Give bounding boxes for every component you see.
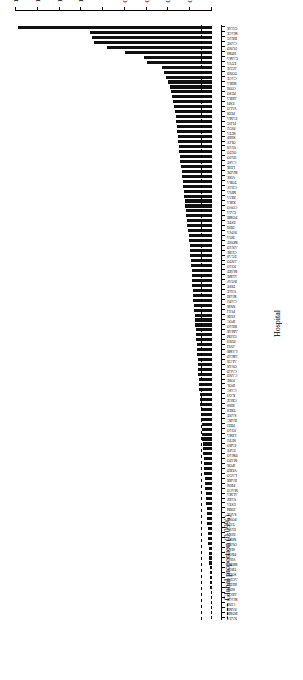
category-tick-label: CINF <box>227 601 260 605</box>
bar <box>92 36 212 39</box>
category-tick-label: SANT <box>227 413 260 417</box>
category-tick-label: GAMA <box>227 56 260 60</box>
bar <box>184 190 212 193</box>
category-tick-label: VARZ <box>227 497 260 501</box>
category-tick <box>222 453 225 454</box>
bar <box>203 447 212 450</box>
bar <box>208 542 212 545</box>
category-tick-label: TROF <box>227 566 260 570</box>
category-tick-label: MEDA <box>227 561 260 565</box>
bar <box>203 442 212 445</box>
bar <box>172 95 212 98</box>
bar <box>206 497 212 500</box>
category-tick-label: CRUZ <box>227 398 260 402</box>
category-tick-label: GUIM <box>227 333 260 337</box>
category-tick-label: DINI <box>227 224 260 228</box>
category-tick-label: HBM <box>227 507 260 511</box>
category-tick-label: IPOC <box>227 318 260 322</box>
bar <box>211 591 212 594</box>
category-tick-label: MACE <box>227 31 260 35</box>
bar <box>211 601 212 604</box>
category-tick-label: HPMI <box>227 51 260 55</box>
category-tick-label: JOAO <box>227 264 260 268</box>
category-tick <box>222 264 225 265</box>
bar <box>208 532 212 535</box>
category-tick-label: PEDI <box>227 110 260 114</box>
category-tick <box>222 205 225 206</box>
category-tick-label: AGUD <box>227 576 260 580</box>
category-tick <box>222 111 225 112</box>
value-tick-label: 1.8 <box>12 0 20 8</box>
bar <box>195 323 212 326</box>
category-tick <box>222 339 225 340</box>
category-tick-label: TAVI <box>227 522 260 526</box>
bar <box>211 606 212 609</box>
bar <box>182 175 212 178</box>
category-tick-label: CACE <box>227 75 260 79</box>
plot-area: GUARMACEBRAGCANTFUNDHPMIGAMAETVAAGUETOND… <box>0 0 303 680</box>
category-tick-label: AMAD <box>227 353 260 357</box>
category-tick-label: TRES <box>227 408 260 412</box>
category-tick-label: VISE <box>227 175 260 179</box>
category-tick-label: VIAN <box>227 145 260 149</box>
bar <box>197 348 212 351</box>
category-tick-label: BOMB <box>227 611 260 615</box>
category-tick-label: NISA <box>227 532 260 536</box>
category-tick-label: MADE <box>227 170 260 174</box>
category-tick-label: ETVA <box>227 61 260 65</box>
category-tick <box>222 26 225 27</box>
category-tick <box>222 210 225 211</box>
bar <box>210 566 212 569</box>
bar <box>184 195 212 198</box>
category-tick <box>222 91 225 92</box>
bar <box>195 314 212 317</box>
value-tick-label: 1.4 <box>56 0 64 8</box>
category-tick <box>222 383 225 384</box>
bar <box>188 224 213 227</box>
category-tick <box>222 180 225 181</box>
category-tick-label: XAVI <box>227 393 260 397</box>
bar <box>176 120 212 123</box>
category-tick <box>222 269 225 270</box>
bar <box>187 219 212 222</box>
category-tick <box>222 66 225 67</box>
category-tick-label: BRAO <box>227 323 260 327</box>
bar <box>205 482 212 485</box>
category-tick <box>222 255 225 256</box>
bar <box>208 537 212 540</box>
category-tick <box>222 507 225 508</box>
category-tick <box>222 126 225 127</box>
category-tick-label: FUND <box>227 46 260 50</box>
category-tick-label: CONI <box>227 85 260 89</box>
bar <box>177 130 212 133</box>
category-tick-label: SNIR <box>227 303 260 307</box>
category-tick-label: JOAO <box>227 427 260 431</box>
category-tick-label: VALO <box>227 105 260 109</box>
category-tick-label: ESPI <box>227 100 260 104</box>
category-tick-label: SAGR <box>227 512 260 516</box>
category-tick-label: BRAG <box>227 36 260 40</box>
category-tick <box>222 200 225 201</box>
value-tick-label: 0.2 <box>186 0 194 8</box>
category-tick <box>222 443 225 444</box>
category-tick <box>222 46 225 47</box>
category-tick-label: NAZA <box>227 616 260 620</box>
bar <box>186 214 212 217</box>
category-tick-label: SOUR <box>227 571 260 575</box>
category-tick <box>222 354 225 355</box>
category-tick <box>222 493 225 494</box>
category-tick-label: JOSE <box>227 378 260 382</box>
category-tick-label: AMAR <box>227 328 260 332</box>
category-tick-label: LAGO <box>227 472 260 476</box>
category-tick <box>222 379 225 380</box>
category-tick <box>222 150 225 151</box>
category-tick-label: FEIR <box>227 313 260 317</box>
bar <box>175 110 212 113</box>
bar <box>94 41 212 44</box>
bar <box>90 31 212 34</box>
category-tick <box>222 344 225 345</box>
category-tick <box>222 220 225 221</box>
category-tick-label: SINE <box>227 586 260 590</box>
category-tick-label: BOAV <box>227 279 260 283</box>
bar <box>202 433 212 436</box>
